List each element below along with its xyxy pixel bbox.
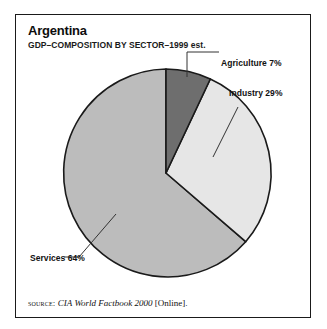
pie-label-industry: Industry 29%: [229, 88, 283, 98]
chart-subtitle: GDP–COMPOSITION BY SECTOR–1999 est.: [28, 40, 268, 51]
leader-line-services: [64, 214, 116, 257]
pie-slice-industry: [166, 79, 271, 242]
chart-figure-frame: Argentina GDP–COMPOSITION BY SECTOR–1999…: [15, 14, 311, 318]
source-label: SOURCE:: [28, 298, 56, 308]
pie-label-agriculture: Agriculture 7%: [221, 58, 282, 68]
pie-slice-services: [64, 69, 246, 277]
source-medium: [Online].: [155, 298, 188, 308]
pie-label-services: Services 64%: [30, 253, 85, 263]
source-citation: SOURCE: CIA World Factbook 2000 [Online]…: [28, 298, 188, 308]
leader-line-industry: [213, 107, 238, 157]
pie-slice-agriculture: [166, 69, 210, 173]
leader-line-agriculture: [187, 52, 219, 77]
title-block: Argentina GDP–COMPOSITION BY SECTOR–1999…: [28, 23, 268, 51]
page-title: Argentina: [28, 23, 268, 38]
source-publication-title: CIA World Factbook 2000: [58, 298, 153, 308]
